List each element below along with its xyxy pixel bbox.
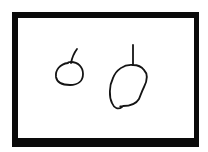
drawing-canvas [0, 0, 208, 152]
picture-frame [12, 12, 199, 147]
frame-interior [18, 18, 194, 138]
